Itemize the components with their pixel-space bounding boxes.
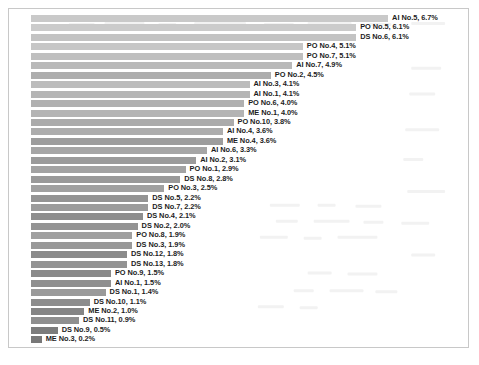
bar-chart-plot-area: AI No.5, 6.7%PO No.5, 6.1%DS No.6, 6.1%P… [31,14,466,344]
bar [31,251,127,258]
bar [31,232,132,239]
bar-value-label: ME No.3, 0.2% [46,334,95,344]
bar [31,176,180,183]
bar [31,336,42,343]
bar [31,147,207,154]
bar [31,53,303,60]
bar [31,280,111,287]
bar [31,299,90,306]
bar [31,157,196,164]
bar [31,261,127,268]
bar [31,242,132,249]
bar [31,185,164,192]
bar [31,308,84,315]
bar [31,223,138,230]
bar [31,43,303,50]
bar [31,128,223,135]
bar [31,213,143,220]
bar [31,91,250,98]
bar [31,289,106,296]
bar [31,166,186,173]
bar [31,317,79,324]
bar [31,34,356,41]
bar [31,110,244,117]
bar [31,270,111,277]
bar [31,327,58,334]
bar [31,204,148,211]
bar [31,100,244,107]
bar-value-label: DS No.6, 6.1% [360,32,409,42]
bar [31,81,250,88]
chart-frame: AI No.5, 6.7%PO No.5, 6.1%DS No.6, 6.1%P… [8,8,469,348]
bar [31,62,292,69]
bar [31,119,234,126]
bar [31,15,388,22]
bar [31,24,356,31]
bar [31,72,271,79]
bar [31,138,223,145]
bar [31,195,148,202]
